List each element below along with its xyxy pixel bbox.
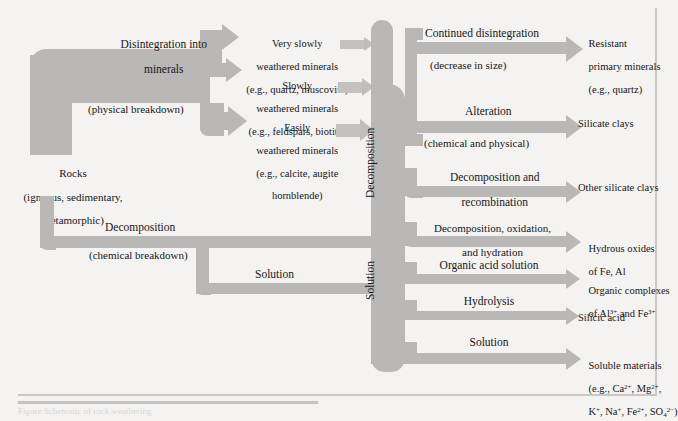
label-disintegration-line1: Disintegration into <box>120 38 207 50</box>
product-soluble-materials: Soluble materials (e.g., Ca2+, Mg2+, K+,… <box>578 349 678 421</box>
label-decrease-in-size: (decrease in size) <box>430 60 506 72</box>
figure-frame-bottom <box>18 394 657 396</box>
label-hydrolysis: Hydrolysis <box>404 295 574 307</box>
trunk-chemical-run <box>48 236 380 248</box>
arrow-continued-disintegration <box>414 42 570 54</box>
riser-top-elbow <box>405 28 423 40</box>
trunk-solution-run <box>204 283 380 294</box>
label-physical-breakdown: (physical breakdown) <box>88 104 184 116</box>
label-continued-disintegration: Continued disintegration <box>425 27 539 39</box>
riser-alteration-elbow <box>405 134 423 146</box>
product-other-silicate-clays: Other silicate clays <box>578 182 678 193</box>
easily-line3: (e.g., calcite, augite <box>256 168 338 179</box>
soluble-line1: Soluble materials <box>589 360 662 371</box>
recombination-line1: Decomposition and <box>450 171 540 183</box>
easily-line1: Easily <box>284 122 310 133</box>
oxidation-line2: and hydration <box>462 246 523 258</box>
figure-caption: Figure Schematic of rock weathering <box>18 406 348 416</box>
page-bleed-text <box>28 2 588 24</box>
oxidation-line1: Decomposition, oxidation, <box>434 222 551 234</box>
product-resistant-primary-minerals: Resistant primary minerals (e.g., quartz… <box>578 27 674 106</box>
label-disintegration-line2: minerals <box>144 63 184 75</box>
feeder-slowly <box>338 82 364 93</box>
label-chemical-breakdown: (chemical breakdown) <box>89 250 188 262</box>
label-chemical-and-physical: (chemical and physical) <box>424 138 529 150</box>
resistant-line2: primary minerals <box>589 61 661 72</box>
label-rocks-line2: (igneous, sedimentary, <box>23 191 122 203</box>
soluble-line3: K+, Na+, Fe2+, SO42−) <box>589 406 678 417</box>
resistant-line3: (e.g., quartz) <box>589 84 643 95</box>
label-decomposition-path: Decomposition <box>105 221 175 233</box>
feeder-very-slowly <box>340 40 366 49</box>
label-rocks-line1: Rocks <box>59 167 87 179</box>
recombination-line2: recombination <box>462 196 528 208</box>
hydrous-line1: Hydrous oxides <box>589 243 655 254</box>
arrow-hydrolysis <box>414 311 570 320</box>
label-solution-out: Solution <box>404 336 574 348</box>
label-alteration: Alteration <box>465 105 512 117</box>
label-organic-acid-solution: Organic acid solution <box>404 259 574 271</box>
arrow-organic-acid <box>414 274 570 284</box>
arrow-solution-out <box>414 353 570 364</box>
slowly-line1: Slowly <box>282 80 312 91</box>
organic-line1: Organic complexes <box>589 285 670 296</box>
resistant-line1: Resistant <box>589 38 628 49</box>
label-solution-path: Solution <box>255 268 294 280</box>
branch-easily-arm <box>200 112 230 130</box>
spine-label-solution: Solution <box>364 261 376 300</box>
spine-bottom <box>371 346 405 372</box>
product-silicic-acid: Silicic acid <box>578 312 674 323</box>
arrow-alteration <box>414 121 570 133</box>
weathering-flow-diagram: Figure Schematic of rock weathering Disi… <box>0 0 678 421</box>
feeder-easily <box>336 124 362 137</box>
caption-rule <box>18 401 318 404</box>
very-slowly-line1: Very slowly <box>272 38 322 49</box>
easily-line4: hornblende) <box>272 190 323 201</box>
product-silicate-clays: Silicate clays <box>578 118 674 129</box>
label-disintegration: Disintegration into minerals <box>88 26 228 88</box>
soluble-line2: (e.g., Ca2+, Mg2+, <box>589 383 662 394</box>
spine-label-decomposition: Decomposition <box>364 128 376 198</box>
easily-line2: weathered minerals <box>256 145 338 156</box>
